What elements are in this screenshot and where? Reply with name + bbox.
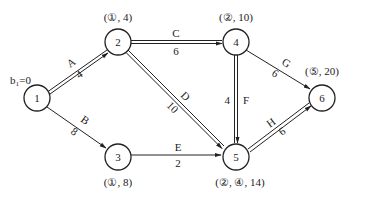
edge-f-name: F bbox=[243, 94, 249, 106]
node-5-annotation: (②, ④, 14) bbox=[215, 176, 265, 189]
edge-f-weight: 4 bbox=[225, 94, 231, 106]
start-label: b₁=0 bbox=[10, 74, 32, 86]
node-3: 3 (①, 8) bbox=[104, 144, 133, 189]
node-4-annotation: (②, 10) bbox=[219, 11, 253, 24]
edge-g: G 6 bbox=[246, 50, 310, 89]
node-2-label: 2 bbox=[115, 36, 121, 48]
node-1: 1 bbox=[24, 85, 50, 111]
edge-h-weight: 6 bbox=[276, 124, 288, 137]
edge-f: 4 F bbox=[225, 55, 250, 143]
edge-c: C 6 bbox=[131, 27, 222, 57]
edge-e-name: E bbox=[175, 141, 182, 153]
edge-d-weight: 10 bbox=[165, 99, 182, 116]
edge-h: H 6 bbox=[248, 103, 311, 152]
node-3-label: 3 bbox=[115, 151, 121, 163]
edge-b-weight: 8 bbox=[69, 125, 81, 138]
node-5: 5 (②, ④, 14) bbox=[215, 144, 265, 189]
edge-g-weight: 6 bbox=[270, 67, 281, 80]
node-1-label: 1 bbox=[34, 92, 40, 104]
node-6: 6 (⑤, 20) bbox=[305, 65, 339, 111]
node-6-annotation: (⑤, 20) bbox=[305, 65, 339, 78]
edge-b: B 8 bbox=[47, 107, 106, 148]
node-2: 2 (①, 4) bbox=[104, 11, 133, 55]
edge-d-name: D bbox=[179, 89, 193, 103]
node-4-label: 4 bbox=[233, 36, 239, 48]
node-3-annotation: (①, 8) bbox=[104, 176, 133, 189]
edge-d: D 10 bbox=[126, 50, 224, 149]
node-2-annotation: (①, 4) bbox=[104, 11, 133, 24]
edge-c-name: C bbox=[172, 27, 179, 39]
edge-g-name: G bbox=[280, 56, 293, 70]
edge-a-name: A bbox=[64, 55, 77, 69]
node-6-label: 6 bbox=[319, 92, 325, 104]
edge-a: A 4 bbox=[48, 50, 108, 94]
edge-e-weight: 2 bbox=[175, 157, 181, 169]
edge-b-name: B bbox=[79, 113, 92, 127]
edge-c-weight: 6 bbox=[173, 45, 179, 57]
network-diagram: A 4 B 8 C 6 D 10 E 2 4 F G 6 bbox=[0, 0, 374, 198]
node-4: 4 (②, 10) bbox=[219, 11, 253, 55]
node-5-label: 5 bbox=[233, 151, 239, 163]
edge-e: E 2 bbox=[131, 141, 221, 169]
